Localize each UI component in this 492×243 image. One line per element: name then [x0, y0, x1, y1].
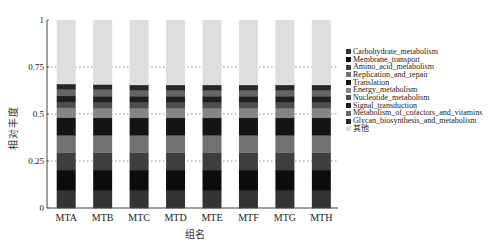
- bar-mtf: [239, 20, 258, 208]
- bar-segment: [93, 135, 112, 152]
- bar-segment: [312, 20, 331, 85]
- legend-swatch: [346, 103, 351, 108]
- legend-swatch: [346, 126, 351, 131]
- bar-segment: [275, 118, 294, 136]
- bar-segment: [130, 118, 149, 136]
- bar-segment: [275, 85, 294, 90]
- bar-mtg: [275, 20, 294, 208]
- bar-segment: [57, 96, 76, 102]
- bar-segment: [312, 90, 331, 97]
- bar-segment: [166, 152, 185, 170]
- bar-segment: [275, 170, 294, 190]
- bar-segment: [239, 90, 258, 97]
- bar-segment: [130, 152, 149, 170]
- bar-segment: [203, 85, 222, 90]
- x-tick-label: MTG: [274, 212, 296, 223]
- bar-segment: [57, 190, 76, 208]
- bar-segment: [203, 152, 222, 170]
- bar-segment: [203, 118, 222, 136]
- bar-segment: [93, 96, 112, 102]
- bar-segment: [275, 102, 294, 108]
- bar-segment: [57, 84, 76, 89]
- bar-segment: [130, 108, 149, 118]
- bar-segment: [275, 135, 294, 152]
- bar-segment: [275, 20, 294, 85]
- bar-segment: [203, 190, 222, 208]
- bar-segment: [166, 170, 185, 190]
- bar-mtc: [130, 20, 149, 208]
- x-tick-label: MTA: [55, 212, 77, 223]
- bar-segment: [130, 20, 149, 85]
- bar-segment: [203, 135, 222, 152]
- bar-segment: [239, 170, 258, 190]
- bar-segment: [312, 102, 331, 108]
- bar-segment: [239, 190, 258, 208]
- bar-segment: [312, 108, 331, 118]
- bar-segment: [57, 152, 76, 170]
- y-tick-label: 0: [40, 203, 45, 213]
- bar-segment: [275, 190, 294, 208]
- bar-segment: [166, 102, 185, 108]
- y-tick-label: 0.75: [28, 62, 44, 72]
- bar-segment: [312, 135, 331, 152]
- bar-segment: [93, 190, 112, 208]
- bar-segment: [203, 90, 222, 97]
- bars: [57, 20, 331, 208]
- bar-segment: [93, 102, 112, 108]
- bar-segment: [312, 118, 331, 136]
- bar-segment: [203, 96, 222, 102]
- y-tick-label: 0.5: [33, 109, 45, 119]
- bar-mta: [57, 20, 76, 208]
- legend-swatch: [346, 95, 351, 100]
- x-tick-label: MTD: [164, 212, 186, 223]
- bar-segment: [57, 135, 76, 152]
- legend-swatch: [346, 88, 351, 93]
- legend-swatch: [346, 57, 351, 62]
- bar-segment: [93, 152, 112, 170]
- legend-swatch: [346, 119, 351, 124]
- bar-segment: [239, 96, 258, 102]
- bar-segment: [203, 170, 222, 190]
- bar-segment: [130, 135, 149, 152]
- bar-segment: [57, 89, 76, 96]
- bar-segment: [239, 20, 258, 85]
- bar-mth: [312, 20, 331, 208]
- bar-segment: [93, 89, 112, 96]
- bar-segment: [93, 170, 112, 190]
- legend-swatch: [346, 49, 351, 54]
- x-tick-label: MTE: [201, 212, 222, 223]
- x-tick-label: MTB: [92, 212, 114, 223]
- bar-segment: [239, 135, 258, 152]
- bar-segment: [312, 96, 331, 102]
- bar-segment: [166, 135, 185, 152]
- bar-segment: [57, 117, 76, 135]
- bar-segment: [203, 102, 222, 108]
- bar-segment: [130, 90, 149, 97]
- y-tick-label: 0.25: [28, 156, 44, 166]
- bar-segment: [130, 170, 149, 190]
- bar-mtb: [93, 20, 112, 208]
- x-tick-label: MTH: [310, 212, 332, 223]
- bar-segment: [239, 152, 258, 170]
- legend-label: Glycan_biosynthesis_and_metabolism: [353, 117, 477, 125]
- legend-item: 其他: [346, 125, 482, 133]
- bar-segment: [275, 96, 294, 102]
- bar-segment: [166, 20, 185, 85]
- bar-segment: [312, 85, 331, 90]
- bar-mte: [203, 20, 222, 208]
- y-tick-label: 1: [40, 15, 45, 25]
- bar-segment: [57, 170, 76, 190]
- bar-segment: [239, 108, 258, 118]
- bar-segment: [239, 102, 258, 108]
- bar-segment: [312, 170, 331, 190]
- y-axis-label: 相对丰度: [5, 106, 20, 150]
- bar-segment: [275, 90, 294, 97]
- bar-segment: [57, 108, 76, 118]
- bar-segment: [130, 102, 149, 108]
- bar-segment: [166, 190, 185, 208]
- bar-segment: [275, 108, 294, 118]
- bar-segment: [130, 96, 149, 102]
- bar-segment: [57, 20, 76, 84]
- bar-segment: [130, 190, 149, 208]
- bar-segment: [166, 96, 185, 102]
